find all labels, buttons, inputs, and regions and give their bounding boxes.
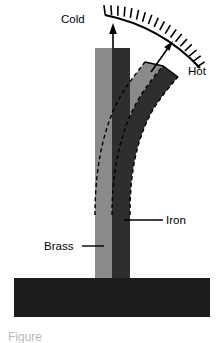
hot-label: Hot (188, 65, 207, 77)
figure-bimetallic-strip: Cold Hot Iron Brass Figure (0, 0, 224, 343)
cold-label: Cold (61, 13, 85, 25)
cold-arrow (109, 23, 117, 48)
brass-label: Brass (44, 240, 74, 252)
cold-arrow-head (109, 23, 117, 34)
cold-strip-brass-layer (95, 48, 112, 278)
diagram-canvas: Cold Hot Iron Brass Figure (0, 0, 224, 343)
cold-strip-iron-layer (112, 48, 130, 278)
figure-caption: Figure (8, 330, 42, 343)
base-block (14, 278, 210, 317)
iron-label: Iron (166, 214, 186, 226)
